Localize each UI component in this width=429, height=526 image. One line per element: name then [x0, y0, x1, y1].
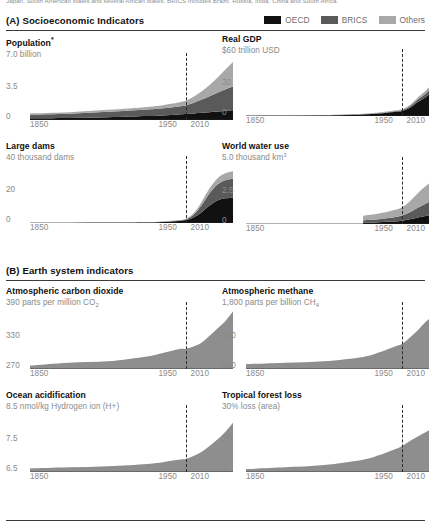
x-axis: 185019502010 — [246, 224, 425, 235]
legend-swatch-brics — [321, 16, 338, 24]
legend-item-others: Others — [379, 15, 426, 25]
x-tick-2010: 2010 — [407, 472, 425, 481]
x-axis: 185019502010 — [30, 472, 209, 483]
chart-y-bottom-label: 0 — [222, 216, 227, 225]
x-tick-2010: 2010 — [407, 224, 425, 233]
section-earth-system: (B) Earth system indicators — [6, 264, 425, 281]
chart-y-mid-label: 3.5 — [6, 82, 18, 91]
chart-y-bottom-label: 6.5 — [6, 464, 18, 473]
chart-panel: Real GDP$60 trillion USD300185019502010 — [222, 34, 425, 131]
chart-y-top-label: 5.0 thousand km3 — [222, 152, 425, 164]
plot-area: 7.56.5 — [6, 414, 209, 472]
x-axis: 185019502010 — [30, 369, 209, 380]
chart-y-top-label: 8.5 nmol/kg Hydrogen ion (H+) — [6, 401, 209, 412]
x-tick-1950: 1950 — [374, 116, 392, 125]
legend-swatch-oecd — [264, 16, 281, 24]
chart-y-top-label: 1,800 parts per billion CH4 — [222, 297, 425, 309]
section-a-header: (A) Socioeconomic Indicators OECD BRICS … — [6, 14, 425, 31]
chart-y-top-label: 30% loss (area) — [222, 401, 425, 412]
legend-label-others: Others — [400, 15, 426, 25]
x-tick-1950: 1950 — [374, 472, 392, 481]
plot-area: 2.50 — [222, 166, 425, 224]
legend-item-oecd: OECD — [264, 15, 309, 25]
chart-panel: World water use5.0 thousand km32.5018501… — [222, 141, 425, 235]
plot-area: 900600 — [222, 311, 425, 369]
chart-title: Atmospheric methane — [222, 286, 425, 297]
marker-line-1950 — [402, 302, 403, 369]
x-tick-1850: 1850 — [30, 223, 48, 232]
chart-title: Population* — [6, 34, 209, 49]
chart-title: World water use — [222, 141, 425, 152]
chart-y-top-label: 390 parts per million CO2 — [6, 297, 209, 309]
x-tick-2010: 2010 — [407, 369, 425, 378]
chart-title: Real GDP — [222, 34, 425, 45]
chart-svg — [30, 311, 233, 369]
x-tick-1850: 1850 — [30, 472, 48, 481]
chart-title: Ocean acidification — [6, 390, 209, 401]
marker-line-1950 — [186, 405, 187, 472]
section-b-header: (B) Earth system indicators — [6, 264, 425, 281]
chart-subscript: 2 — [95, 302, 98, 308]
chart-y-bottom-label: 0 — [222, 108, 227, 117]
chart-y-mid-label: 900 — [222, 331, 236, 340]
chart-y-bottom-label: 0 — [222, 464, 227, 473]
x-tick-1850: 1850 — [246, 369, 264, 378]
section-a-rule — [6, 30, 425, 31]
x-tick-1850: 1850 — [30, 120, 48, 129]
chart-panel: Ocean acidification8.5 nmol/kg Hydrogen … — [6, 390, 209, 483]
chart-y-mid-label: 7.5 — [6, 434, 18, 443]
chart-panel: Atmospheric methane1,800 parts per billi… — [222, 286, 425, 380]
plot-area: 3.50 — [6, 62, 209, 120]
marker-line-1950 — [402, 157, 403, 224]
chart-title: Large dams — [6, 141, 209, 152]
section-b-title: (B) Earth system indicators — [6, 265, 133, 276]
section-b-rule — [6, 280, 425, 281]
section-a-title: (A) Socioeconomic Indicators — [6, 15, 144, 26]
chart-svg — [30, 165, 233, 223]
marker-line-1950 — [186, 156, 187, 223]
plot-area: 300 — [222, 58, 425, 116]
x-axis: 185019502010 — [30, 223, 209, 234]
x-tick-2010: 2010 — [191, 472, 209, 481]
area-series-main — [30, 423, 233, 472]
plot-area: 330270 — [6, 311, 209, 369]
marker-line-1950 — [186, 53, 187, 120]
chart-y-mid-label: 30 — [222, 78, 231, 87]
x-axis: 185019502010 — [246, 116, 425, 127]
x-tick-1950: 1950 — [374, 224, 392, 233]
legend-swatch-others — [379, 16, 396, 24]
chart-y-bottom-label: 600 — [222, 361, 236, 370]
x-axis: 185019502010 — [246, 369, 425, 380]
x-tick-2010: 2010 — [191, 369, 209, 378]
chart-y-bottom-label: 270 — [6, 361, 20, 370]
x-tick-2010: 2010 — [191, 120, 209, 129]
chart-title: Tropical forest loss — [222, 390, 425, 401]
chart-y-bottom-label: 0 — [6, 112, 11, 121]
x-axis: 185019502010 — [30, 120, 209, 131]
marker-line-1950 — [186, 302, 187, 369]
marker-line-1950 — [402, 405, 403, 472]
x-tick-1850: 1850 — [30, 369, 48, 378]
legend-item-brics: BRICS — [321, 15, 368, 25]
chart-y-bottom-label: 0 — [6, 215, 11, 224]
x-tick-1850: 1850 — [246, 116, 264, 125]
x-axis: 185019502010 — [246, 472, 425, 483]
plot-area: 150 — [222, 414, 425, 472]
plot-area: 200 — [6, 165, 209, 223]
chart-y-mid-label: 2.5 — [222, 186, 234, 195]
chart-panel: Large dams40 thousand dams20018501950201… — [6, 141, 209, 235]
area-series-main — [30, 311, 233, 369]
chart-svg — [30, 414, 233, 472]
chart-y-top-label: 7.0 billion — [6, 49, 209, 60]
chart-panel: Tropical forest loss30% loss (area)15018… — [222, 390, 425, 483]
chart-svg — [30, 62, 233, 120]
marker-line-1950 — [402, 49, 403, 116]
panels-earth-system: Atmospheric carbon dioxide390 parts per … — [6, 286, 425, 493]
chart-title: Atmospheric carbon dioxide — [6, 286, 209, 297]
x-tick-2010: 2010 — [191, 223, 209, 232]
chart-y-top-label: $60 trillion USD — [222, 45, 425, 56]
legend-label-brics: BRICS — [342, 15, 368, 25]
x-tick-1950: 1950 — [158, 120, 176, 129]
x-tick-1950: 1950 — [374, 369, 392, 378]
x-tick-1950: 1950 — [158, 472, 176, 481]
